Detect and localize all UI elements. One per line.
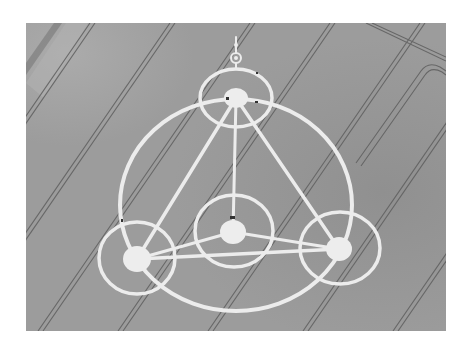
crop-circle-photo: Aerial grayscale photograph of a crop ci… [26, 23, 446, 331]
crop-circle-illustration [26, 23, 446, 331]
